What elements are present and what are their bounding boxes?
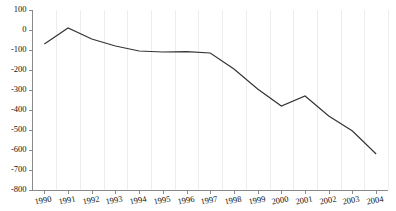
line-chart: 1000-100-200-300-400-500-600-700-800 199… [0, 0, 396, 211]
y-tick-label: 0 [22, 24, 26, 34]
chart-screenshot: 1000-100-200-300-400-500-600-700-800 199… [0, 0, 396, 211]
y-tick-label: 100 [14, 4, 27, 14]
y-tick-label: -300 [11, 84, 27, 94]
y-tick-label: -100 [11, 44, 27, 54]
y-tick-label: -400 [11, 104, 27, 114]
y-tick-label: -700 [11, 164, 27, 174]
y-tick-label: -200 [11, 64, 27, 74]
y-tick-label: -800 [11, 184, 27, 194]
y-tick-label: -600 [11, 144, 27, 154]
y-tick-label: -500 [11, 124, 27, 134]
